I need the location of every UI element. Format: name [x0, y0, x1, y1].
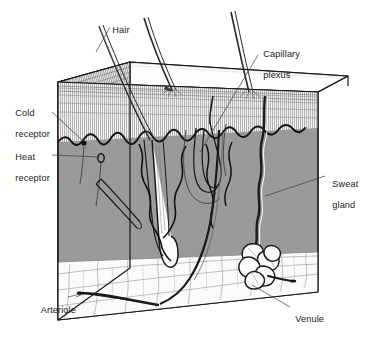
block-body	[41, 11, 348, 320]
label-hair: Hair	[107, 14, 130, 35]
skin-diagram-figure: Hair Capillary plexus Cold receptor Heat…	[0, 0, 369, 352]
label-capillary-plexus-line2: plexus	[263, 70, 290, 80]
label-sweat-gland-line1: Sweat	[332, 179, 358, 189]
label-cold-receptor: Cold receptor	[10, 97, 50, 139]
label-hair-line1: Hair	[112, 25, 129, 35]
label-sweat-gland: Sweat gland	[327, 168, 358, 210]
label-venule: Venule	[290, 303, 324, 324]
label-arteriole-line1: Arteriole	[41, 305, 76, 315]
label-capillary-plexus-line1: Capillary	[263, 49, 300, 59]
label-arteriole: Arteriole	[36, 294, 76, 315]
label-heat-receptor: Heat receptor	[10, 141, 50, 183]
label-venule-line1: Venule	[295, 314, 324, 324]
label-heat-receptor-line1: Heat	[15, 152, 35, 162]
label-capillary-plexus: Capillary plexus	[258, 38, 300, 80]
label-heat-receptor-line2: receptor	[15, 173, 50, 183]
label-sweat-gland-line2: gland	[332, 200, 355, 210]
label-cold-receptor-line2: receptor	[15, 129, 50, 139]
label-cold-receptor-line1: Cold	[15, 108, 34, 118]
